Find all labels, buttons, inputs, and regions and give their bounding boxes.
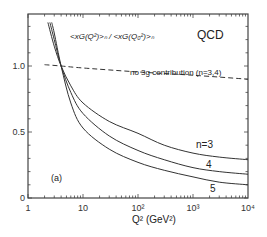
series-label: 4	[206, 159, 212, 170]
x-axis-label: Q² (GeV²)	[132, 214, 176, 225]
x-tick-label: 10²	[131, 203, 144, 213]
x-tick-label: 10³	[186, 203, 199, 213]
data-curves	[45, 22, 248, 184]
series-label: 5	[210, 183, 216, 194]
y-tick-label: 0	[20, 193, 25, 203]
series-n-3	[48, 22, 248, 159]
series-n-4	[50, 22, 248, 174]
y-tick-label: 1.0	[12, 61, 25, 71]
series-label: n=3	[196, 139, 213, 150]
chart: 11010²10³10⁴00.51.0 QCD <xG(Q²)>ₙ / <xG(…	[0, 0, 267, 237]
x-tick-label: 1	[25, 203, 30, 213]
axis-ticks: 11010²10³10⁴00.51.0	[12, 14, 255, 213]
chart-title: QCD	[197, 28, 224, 42]
chart-subtitle: <xG(Q²)>ₙ / <xG(Q₀²)>ₙ	[70, 32, 155, 41]
panel-label: (a)	[51, 173, 62, 183]
series-labels: n=345no 3g contribution (n=3,4)	[130, 68, 222, 194]
y-tick-label: 0.5	[12, 127, 25, 137]
series-n-5	[52, 22, 248, 184]
x-tick-label: 10⁴	[241, 203, 255, 213]
series-label: no 3g contribution (n=3,4)	[130, 68, 222, 77]
x-tick-label: 10	[78, 203, 88, 213]
